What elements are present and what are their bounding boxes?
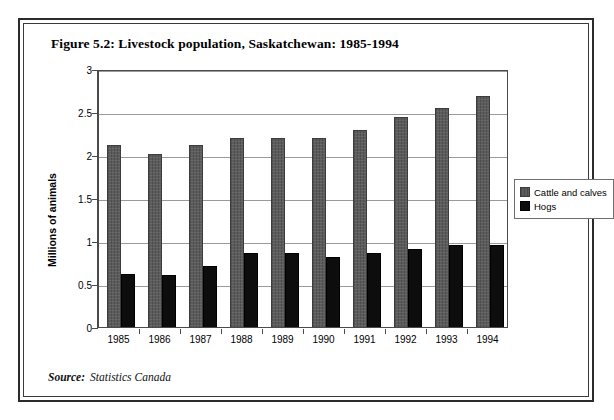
chart-area: Millions of animals 00.511.522.53 198519… [46,62,574,372]
chart-legend: Cattle and calvesHogs [514,179,614,219]
bar-hogs-1986 [162,275,176,327]
x-tick-label-1992: 1992 [394,334,416,345]
bar-cattle-and-calves-1990 [312,138,326,327]
x-tick-mark [262,329,263,334]
bar-cattle-and-calves-1986 [148,154,162,327]
y-tick-label: 1.5 [52,194,92,205]
bar-hogs-1989 [285,253,299,327]
source-value: Statistics Canada [90,371,171,383]
legend-swatch-icon [520,187,530,197]
bar-cattle-and-calves-1985 [107,145,121,327]
y-tick-label: 0 [52,323,92,334]
bars-layer [99,71,507,327]
x-tick-label-1985: 1985 [107,334,129,345]
x-tick-label-1988: 1988 [230,334,252,345]
y-tick-label: 2.5 [52,108,92,119]
x-tick-mark [426,329,427,334]
figure-title: Figure 5.2: Livestock population, Saskat… [51,36,399,52]
y-tick-label: 0.5 [52,280,92,291]
x-tick-mark [385,329,386,334]
bar-hogs-1985 [121,274,135,327]
figure-inner-frame: Figure 5.2: Livestock population, Saskat… [23,23,589,397]
bar-cattle-and-calves-1993 [435,108,449,327]
source-note: Source:Statistics Canada [48,371,171,383]
bar-hogs-1988 [244,253,258,327]
bar-cattle-and-calves-1992 [394,117,408,327]
x-axis-tick-labels: 1985198619871988198919901991199219931994 [98,334,508,352]
legend-label: Hogs [534,201,556,212]
bar-cattle-and-calves-1994 [476,96,490,327]
y-tick-label: 2 [52,151,92,162]
x-tick-mark [139,329,140,334]
x-tick-label-1989: 1989 [271,334,293,345]
bar-hogs-1994 [490,245,504,327]
x-tick-label-1994: 1994 [476,334,498,345]
bar-hogs-1991 [367,253,381,327]
y-tick-label: 3 [52,65,92,76]
bar-hogs-1987 [203,266,217,327]
y-axis-tick-labels: 00.511.522.53 [46,70,92,328]
x-tick-label-1990: 1990 [312,334,334,345]
bar-cattle-and-calves-1988 [230,138,244,327]
legend-row-1: Cattle and calves [520,185,607,199]
x-tick-mark [344,329,345,334]
legend-row-2: Hogs [520,199,607,213]
plot-area [98,70,508,328]
figure-outer-frame: Figure 5.2: Livestock population, Saskat… [18,18,594,402]
x-tick-mark [303,329,304,334]
x-tick-label-1991: 1991 [353,334,375,345]
bar-hogs-1990 [326,257,340,327]
legend-label: Cattle and calves [534,187,607,198]
bar-cattle-and-calves-1991 [353,130,367,327]
x-tick-label-1987: 1987 [189,334,211,345]
bar-cattle-and-calves-1989 [271,138,285,327]
source-label: Source: [48,371,85,383]
bar-cattle-and-calves-1987 [189,145,203,327]
x-tick-mark [180,329,181,334]
legend-swatch-icon [520,201,530,211]
y-tick-label: 1 [52,237,92,248]
bar-hogs-1992 [408,249,422,327]
x-tick-label-1993: 1993 [435,334,457,345]
bar-hogs-1993 [449,245,463,327]
x-tick-label-1986: 1986 [148,334,170,345]
x-tick-mark [221,329,222,334]
x-tick-mark [467,329,468,334]
